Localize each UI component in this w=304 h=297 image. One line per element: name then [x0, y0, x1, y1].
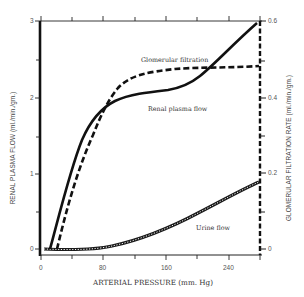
y-right-tick-0.2: 0.2	[268, 169, 277, 176]
x-tick-0: 0	[39, 264, 43, 271]
top-ticks	[41, 16, 260, 21]
x-tick-240: 240	[223, 264, 234, 271]
urine-flow-line	[44, 182, 259, 250]
y-left-tick-1: 1	[30, 170, 34, 177]
y-left-tick-0: 0	[30, 245, 34, 252]
y-right-tick-0: 0	[268, 245, 272, 252]
y-left-axis-title: RENAL PLASMA FLOW (ml./min./gm.)	[9, 92, 17, 205]
y-left-tick-2: 2	[30, 94, 34, 101]
x-tick-160: 160	[161, 264, 172, 271]
renal-plasma-flow-label: Renal plasma flow	[148, 105, 208, 113]
y-right-tick-0.4: 0.4	[268, 94, 277, 101]
urine-flow-label: Urine flow	[196, 224, 231, 232]
x-axis-title: ARTERIAL PRESSURE (mm. Hg)	[92, 278, 213, 287]
x-tick-80: 80	[99, 264, 107, 271]
bottom-ticks	[41, 255, 260, 260]
y-right-tick-0.6: 0.6	[268, 17, 277, 24]
chart: 0 1 2 3 0 0.2 0.4 0.6 0 80 160 240 ARTER…	[0, 0, 304, 297]
glomerular-filtration-line	[57, 66, 259, 249]
y-right-axis-title: GLOMERULAR FILTRATION RATE (ml./min./gm.…	[285, 75, 293, 221]
glomerular-filtration-label: Glomerular filtration	[141, 56, 208, 64]
y-left-tick-3: 3	[30, 17, 34, 24]
